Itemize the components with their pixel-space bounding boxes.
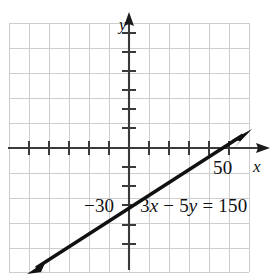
equation-prefix: 3 — [140, 195, 150, 216]
axes-group — [8, 16, 266, 270]
equation-suffix: = 150 — [198, 195, 248, 216]
equation-middle: − 5 — [158, 195, 189, 216]
coordinate-plane-svg — [0, 0, 276, 280]
graph-figure: y x 50 −30 3x − 5y = 150 — [0, 0, 276, 280]
y-intercept-label: −30 — [84, 196, 114, 215]
x-axis-arrowhead — [256, 143, 270, 153]
equation-variable-y: y — [189, 195, 198, 216]
equation-label: 3x − 5y = 150 — [140, 196, 247, 215]
x-intercept-label: 50 — [213, 158, 232, 177]
y-axis-label: y — [119, 16, 127, 33]
x-axis-label: x — [253, 158, 261, 175]
